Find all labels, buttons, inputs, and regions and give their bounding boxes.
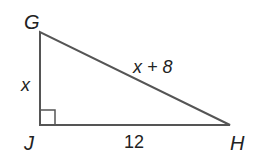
right-angle-marker — [40, 110, 55, 125]
vertex-label-G: G — [24, 12, 40, 32]
side-label-GH: x + 8 — [133, 58, 173, 76]
triangle-GJH — [40, 32, 230, 125]
vertex-label-H: H — [230, 133, 244, 153]
side-label-GJ: x — [21, 76, 30, 94]
vertex-label-J: J — [24, 133, 34, 153]
side-label-JH: 12 — [124, 133, 144, 151]
